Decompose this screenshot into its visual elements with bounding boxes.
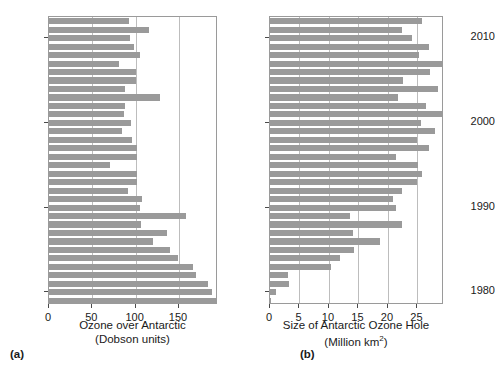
bar (270, 77, 403, 83)
y-tick-mark (44, 207, 48, 208)
bar (49, 247, 170, 253)
bar (270, 27, 402, 33)
x-tick-mark (416, 304, 417, 308)
bar (49, 205, 140, 211)
x-tick-mark (298, 304, 299, 308)
bar (270, 255, 340, 261)
bar (49, 221, 141, 227)
y-tick-mark (44, 291, 48, 292)
bar (270, 154, 396, 160)
bar (270, 238, 380, 244)
y-tick-label-1990: 1990 (471, 201, 495, 212)
bar (270, 111, 442, 117)
x-axis-title-a-line1: Ozone over Antarctic (79, 319, 186, 331)
bar (270, 264, 331, 270)
y-tick-mark (44, 122, 48, 123)
bar (270, 86, 438, 92)
bar (270, 94, 398, 100)
x-axis-title-b-unit-pre: (Million km (324, 336, 379, 348)
x-tick-mark (91, 304, 92, 308)
panel-a-ozone-over-antarctic: 1980199020002010 050100150 Ozone over An… (0, 0, 230, 367)
bar (49, 281, 208, 287)
bar (49, 213, 186, 219)
bar (49, 289, 212, 295)
bar (49, 230, 167, 236)
bar (49, 120, 131, 126)
bar (49, 145, 137, 151)
bar (270, 179, 417, 185)
bar (270, 205, 396, 211)
panel-caption-b: (b) (300, 348, 315, 361)
y-tick-label-1980: 1980 (471, 285, 495, 296)
panel-caption-a: (a) (10, 348, 24, 361)
x-tick-mark (135, 304, 136, 308)
bar (49, 44, 134, 50)
bar (270, 52, 419, 58)
plot-area-b (269, 16, 443, 304)
bar (49, 27, 149, 33)
bar (49, 154, 137, 160)
bar (49, 77, 136, 83)
x-tick-mark (48, 304, 49, 308)
bar (49, 196, 142, 202)
bar (270, 247, 354, 253)
bar (49, 137, 132, 143)
bar (270, 298, 271, 303)
bar (270, 171, 422, 177)
y-tick-mark (44, 37, 48, 38)
x-axis-title-b-line2: (Million km2) (324, 336, 387, 348)
bar (49, 264, 193, 270)
bar (49, 238, 153, 244)
bar (49, 128, 122, 134)
bar (49, 188, 128, 194)
bar (270, 188, 402, 194)
x-axis-title-b: Size of Antarctic Ozone Hole (Million km… (256, 318, 456, 349)
bar (270, 35, 412, 41)
bar (270, 196, 393, 202)
bar (49, 162, 110, 168)
bars-b (270, 17, 442, 303)
x-axis-title-b-unit-post: ) (384, 336, 388, 348)
y-tick-label-2010: 2010 (471, 31, 495, 42)
bar (270, 162, 418, 168)
x-tick-mark (357, 304, 358, 308)
bar (270, 230, 353, 236)
bar (270, 128, 435, 134)
bar (270, 61, 442, 67)
x-axis-title-a: Ozone over Antarctic (Dobson units) (48, 318, 217, 346)
bar (270, 18, 422, 24)
bar (270, 221, 402, 227)
bar (49, 94, 160, 100)
x-axis-title-b-line1: Size of Antarctic Ozone Hole (283, 319, 429, 331)
x-tick-mark (178, 304, 179, 308)
x-axis-title-a-line2: (Dobson units) (95, 333, 170, 345)
bar (49, 52, 140, 58)
bar (270, 103, 426, 109)
y-tick-label-2000: 2000 (471, 116, 495, 127)
bar (49, 111, 124, 117)
bar (49, 35, 130, 41)
bar (49, 179, 137, 185)
bar (270, 213, 350, 219)
bar (49, 86, 125, 92)
x-tick-mark (387, 304, 388, 308)
bar (49, 298, 216, 303)
bar (270, 44, 429, 50)
bar (49, 69, 136, 75)
bar (270, 272, 288, 278)
bar (270, 69, 430, 75)
bar (49, 103, 125, 109)
y-tick-mark (265, 207, 269, 208)
bar (270, 145, 429, 151)
bar (270, 281, 289, 287)
bar (49, 255, 178, 261)
y-tick-mark (265, 291, 269, 292)
plot-area-a (48, 16, 217, 304)
bar (270, 120, 421, 126)
bar (49, 171, 137, 177)
bar (49, 61, 119, 67)
bar (270, 137, 417, 143)
bars-a (49, 17, 216, 303)
y-tick-mark (265, 122, 269, 123)
